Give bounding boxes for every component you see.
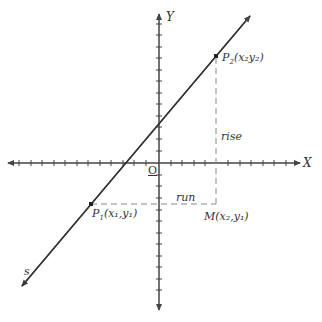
m-name: M (204, 210, 215, 223)
rise-label: rise (221, 131, 242, 142)
slope-diagram: Y X O s P2(x₂y₂) P1(x₁,y₁) M(x₂,y₁) rise… (0, 0, 322, 322)
point-p1 (89, 202, 93, 206)
point-p2-label: P2(x₂y₂) (222, 52, 264, 66)
p2-coords: (x₂y₂) (234, 51, 264, 64)
run-label: run (176, 192, 195, 203)
point-p2 (214, 54, 218, 58)
p1-coords: (x₁,y₁) (104, 207, 137, 220)
line-s-label: s (24, 266, 30, 277)
m-coords: (x₂,y₁) (215, 210, 248, 223)
y-axis-label: Y (166, 11, 174, 23)
point-p1-label: P1(x₁,y₁) (92, 208, 137, 222)
x-axis-label: X (303, 157, 312, 169)
point-m-label: M(x₂,y₁) (204, 211, 249, 222)
origin-label: O (148, 165, 157, 176)
diagram-graphics (0, 0, 322, 322)
